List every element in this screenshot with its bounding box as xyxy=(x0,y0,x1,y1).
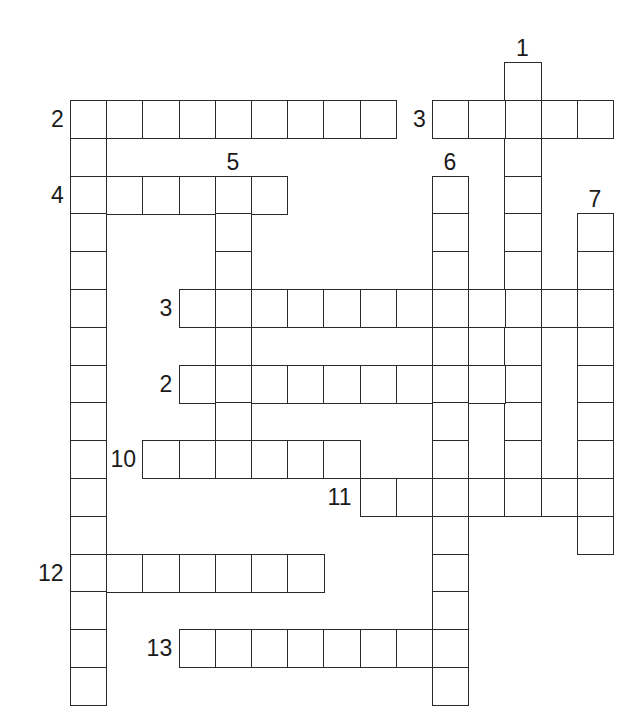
crossword-cell[interactable] xyxy=(70,100,107,139)
crossword-cell[interactable] xyxy=(70,667,107,706)
crossword-cell[interactable] xyxy=(504,327,541,366)
crossword-cell[interactable] xyxy=(432,516,469,555)
crossword-cell[interactable] xyxy=(70,176,107,215)
crossword-cell[interactable] xyxy=(70,440,107,479)
crossword-cell[interactable] xyxy=(577,365,614,404)
crossword-cell[interactable] xyxy=(70,402,107,441)
crossword-cell[interactable] xyxy=(396,289,433,328)
crossword-cell[interactable] xyxy=(468,365,505,404)
crossword-cell[interactable] xyxy=(179,554,216,593)
crossword-cell[interactable] xyxy=(577,251,614,290)
crossword-cell[interactable] xyxy=(432,289,469,328)
crossword-cell[interactable] xyxy=(577,478,614,517)
crossword-cell[interactable] xyxy=(468,100,505,139)
crossword-cell[interactable] xyxy=(251,440,288,479)
crossword-cell[interactable] xyxy=(70,629,107,668)
crossword-cell[interactable] xyxy=(215,100,252,139)
crossword-cell[interactable] xyxy=(287,440,324,479)
crossword-cell[interactable] xyxy=(70,554,107,593)
crossword-cell[interactable] xyxy=(504,100,541,139)
crossword-cell[interactable] xyxy=(215,402,252,441)
crossword-cell[interactable] xyxy=(70,138,107,177)
crossword-cell[interactable] xyxy=(70,289,107,328)
crossword-cell[interactable] xyxy=(215,629,252,668)
crossword-cell[interactable] xyxy=(577,516,614,555)
crossword-cell[interactable] xyxy=(287,629,324,668)
crossword-cell[interactable] xyxy=(432,667,469,706)
crossword-cell[interactable] xyxy=(215,365,252,404)
crossword-cell[interactable] xyxy=(70,213,107,252)
crossword-cell[interactable] xyxy=(179,629,216,668)
crossword-cell[interactable] xyxy=(215,176,252,215)
crossword-cell[interactable] xyxy=(577,100,614,139)
crossword-cell[interactable] xyxy=(468,478,505,517)
crossword-cell[interactable] xyxy=(504,478,541,517)
crossword-cell[interactable] xyxy=(504,289,541,328)
crossword-cell[interactable] xyxy=(432,591,469,630)
crossword-cell[interactable] xyxy=(577,327,614,366)
crossword-cell[interactable] xyxy=(468,289,505,328)
crossword-cell[interactable] xyxy=(323,100,360,139)
crossword-cell[interactable] xyxy=(106,100,143,139)
crossword-cell[interactable] xyxy=(142,554,179,593)
crossword-cell[interactable] xyxy=(251,554,288,593)
crossword-cell[interactable] xyxy=(215,213,252,252)
crossword-cell[interactable] xyxy=(251,629,288,668)
crossword-cell[interactable] xyxy=(432,251,469,290)
crossword-cell[interactable] xyxy=(432,100,469,139)
crossword-cell[interactable] xyxy=(541,478,578,517)
crossword-cell[interactable] xyxy=(70,516,107,555)
crossword-cell[interactable] xyxy=(360,629,397,668)
crossword-cell[interactable] xyxy=(142,176,179,215)
crossword-cell[interactable] xyxy=(432,478,469,517)
crossword-cell[interactable] xyxy=(504,440,541,479)
crossword-cell[interactable] xyxy=(504,251,541,290)
crossword-cell[interactable] xyxy=(577,402,614,441)
crossword-cell[interactable] xyxy=(432,213,469,252)
crossword-cell[interactable] xyxy=(577,289,614,328)
crossword-cell[interactable] xyxy=(504,402,541,441)
crossword-cell[interactable] xyxy=(287,289,324,328)
crossword-cell[interactable] xyxy=(70,251,107,290)
crossword-cell[interactable] xyxy=(287,365,324,404)
crossword-cell[interactable] xyxy=(396,629,433,668)
crossword-cell[interactable] xyxy=(70,478,107,517)
crossword-cell[interactable] xyxy=(432,440,469,479)
crossword-cell[interactable] xyxy=(504,213,541,252)
crossword-cell[interactable] xyxy=(504,176,541,215)
crossword-cell[interactable] xyxy=(432,176,469,215)
crossword-cell[interactable] xyxy=(106,176,143,215)
crossword-cell[interactable] xyxy=(504,138,541,177)
crossword-cell[interactable] xyxy=(323,440,360,479)
crossword-cell[interactable] xyxy=(179,100,216,139)
crossword-cell[interactable] xyxy=(432,402,469,441)
crossword-cell[interactable] xyxy=(142,440,179,479)
crossword-cell[interactable] xyxy=(251,289,288,328)
crossword-cell[interactable] xyxy=(432,554,469,593)
crossword-cell[interactable] xyxy=(70,327,107,366)
crossword-cell[interactable] xyxy=(215,440,252,479)
crossword-cell[interactable] xyxy=(287,100,324,139)
crossword-cell[interactable] xyxy=(360,478,397,517)
crossword-cell[interactable] xyxy=(251,100,288,139)
crossword-cell[interactable] xyxy=(215,251,252,290)
crossword-cell[interactable] xyxy=(179,176,216,215)
crossword-cell[interactable] xyxy=(251,365,288,404)
crossword-cell[interactable] xyxy=(215,327,252,366)
crossword-cell[interactable] xyxy=(504,365,541,404)
crossword-cell[interactable] xyxy=(179,365,216,404)
crossword-cell[interactable] xyxy=(251,176,288,215)
crossword-cell[interactable] xyxy=(70,591,107,630)
crossword-cell[interactable] xyxy=(323,365,360,404)
crossword-cell[interactable] xyxy=(360,100,397,139)
crossword-cell[interactable] xyxy=(432,365,469,404)
crossword-cell[interactable] xyxy=(541,289,578,328)
crossword-cell[interactable] xyxy=(215,554,252,593)
crossword-cell[interactable] xyxy=(504,62,541,101)
crossword-cell[interactable] xyxy=(70,365,107,404)
crossword-cell[interactable] xyxy=(142,100,179,139)
crossword-cell[interactable] xyxy=(396,365,433,404)
crossword-cell[interactable] xyxy=(179,289,216,328)
crossword-cell[interactable] xyxy=(577,440,614,479)
crossword-cell[interactable] xyxy=(179,440,216,479)
